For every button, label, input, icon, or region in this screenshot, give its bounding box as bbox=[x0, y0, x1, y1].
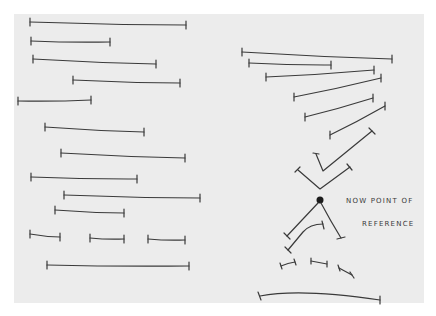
timeline-segment bbox=[30, 18, 186, 29]
annotation-line-1: NOW POINT OF bbox=[346, 197, 413, 205]
upper-v-shape bbox=[313, 128, 375, 171]
timeline-segment bbox=[30, 230, 60, 241]
timeline-segment bbox=[90, 234, 124, 243]
right-converging-segments bbox=[242, 48, 392, 139]
left-timeline-segments bbox=[18, 18, 200, 270]
converging-segment bbox=[249, 59, 331, 69]
converging-segment bbox=[294, 74, 381, 101]
timeline-segment bbox=[47, 261, 189, 270]
annotation-line-2: REFERENCE bbox=[362, 220, 414, 228]
converging-segment bbox=[242, 48, 392, 63]
timeline-segment bbox=[64, 191, 200, 202]
timeline-segment bbox=[45, 123, 144, 136]
bottom-arc bbox=[258, 292, 380, 304]
timeline-segment bbox=[73, 76, 180, 87]
converging-segment bbox=[330, 102, 385, 139]
lower-v-shape bbox=[295, 164, 352, 189]
timeline-segment bbox=[31, 173, 137, 183]
sketch-drawing bbox=[0, 0, 436, 316]
timeline-segment bbox=[33, 55, 156, 68]
diverging-lines bbox=[284, 203, 345, 253]
timeline-segment bbox=[55, 206, 124, 217]
timeline-segment bbox=[61, 149, 185, 162]
converging-segment bbox=[305, 94, 373, 121]
reference-dot bbox=[317, 197, 324, 204]
converging-segment bbox=[266, 66, 374, 81]
timeline-segment bbox=[31, 37, 110, 46]
small-bottom-segments bbox=[280, 258, 354, 278]
timeline-segment bbox=[148, 235, 185, 244]
timeline-segment bbox=[18, 96, 91, 105]
